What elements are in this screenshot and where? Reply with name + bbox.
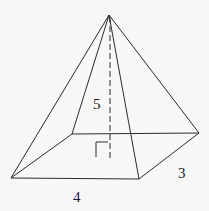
base-width-label: 3 xyxy=(178,165,186,181)
right-angle-marker xyxy=(96,142,108,157)
base-length-label: 4 xyxy=(73,189,81,205)
lateral-edge-back-right xyxy=(109,15,199,133)
lateral-edge-front-right xyxy=(109,15,139,179)
base-back-edge xyxy=(72,133,199,134)
base-left-edge xyxy=(11,134,72,178)
height-label: 5 xyxy=(93,96,101,112)
base-right-edge xyxy=(139,133,199,179)
pyramid-diagram: 5 4 3 xyxy=(0,0,209,211)
base-front-edge xyxy=(11,178,139,179)
lateral-edge-back-left xyxy=(72,15,109,134)
